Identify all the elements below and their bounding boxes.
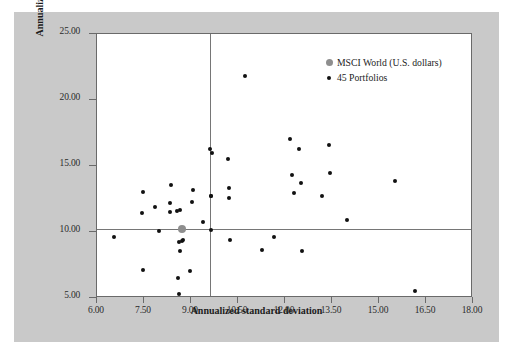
data-point-portfolio bbox=[243, 74, 247, 78]
data-point-portfolio bbox=[209, 194, 213, 198]
x-tick: 12.00 bbox=[284, 297, 285, 303]
data-point-portfolio bbox=[190, 200, 194, 204]
data-point-portfolio bbox=[140, 211, 144, 215]
data-point-portfolio bbox=[177, 292, 181, 296]
x-tick: 16.50 bbox=[425, 297, 426, 303]
data-point-portfolio bbox=[292, 191, 296, 195]
x-tick: 15.00 bbox=[378, 297, 379, 303]
data-point-portfolio bbox=[297, 147, 301, 151]
data-point-portfolio bbox=[300, 249, 304, 253]
data-point-portfolio bbox=[290, 173, 294, 177]
y-tick-label: 15.00 bbox=[60, 158, 80, 168]
data-point-portfolio bbox=[345, 218, 349, 222]
msci-std-dev-reference bbox=[210, 34, 211, 296]
legend-dot-icon bbox=[321, 59, 337, 66]
chart-legend: MSCI World (U.S. dollars) 45 Portfolios bbox=[321, 55, 442, 85]
data-point-portfolio bbox=[227, 196, 231, 200]
data-point-portfolio bbox=[169, 183, 173, 187]
data-point-portfolio bbox=[168, 201, 172, 205]
y-tick-label: 5.00 bbox=[64, 290, 80, 300]
legend-label: 45 Portfolios bbox=[337, 72, 387, 83]
legend-dot-icon bbox=[321, 76, 337, 80]
data-point-portfolio bbox=[201, 220, 205, 224]
data-point-portfolio bbox=[168, 210, 172, 214]
legend-item-msci-world: MSCI World (U.S. dollars) bbox=[321, 55, 442, 70]
data-point-portfolio bbox=[393, 179, 397, 183]
data-point-portfolio bbox=[209, 228, 213, 232]
data-point-portfolio bbox=[188, 269, 192, 273]
x-tick: 7.50 bbox=[143, 297, 144, 303]
data-point-portfolio bbox=[328, 171, 332, 175]
y-tick: 10.00 bbox=[89, 231, 96, 232]
data-point-portfolio bbox=[178, 208, 182, 212]
data-point-portfolio bbox=[210, 151, 214, 155]
data-point-portfolio bbox=[227, 186, 231, 190]
figure-panel: Annualized rate of return in percent 5.0… bbox=[14, 12, 499, 342]
y-tick: 15.00 bbox=[89, 165, 96, 166]
y-axis-title: Annualized rate of return in percent bbox=[34, 0, 45, 64]
legend-item-45-portfolios: 45 Portfolios bbox=[321, 70, 442, 85]
data-point-portfolio bbox=[413, 289, 417, 293]
msci-return-reference bbox=[97, 229, 471, 230]
data-point-portfolio bbox=[141, 190, 145, 194]
x-tick: 18.00 bbox=[472, 297, 473, 303]
data-point-portfolio bbox=[112, 235, 116, 239]
data-point-portfolio bbox=[153, 205, 157, 209]
data-point-portfolio bbox=[141, 268, 145, 272]
x-tick: 10.50 bbox=[237, 297, 238, 303]
data-point-portfolio bbox=[180, 239, 184, 243]
x-tick: 9.00 bbox=[190, 297, 191, 303]
x-tick: 6.00 bbox=[96, 297, 97, 303]
data-point-portfolio bbox=[228, 238, 232, 242]
data-point-portfolio bbox=[272, 235, 276, 239]
data-point-portfolio bbox=[208, 147, 212, 151]
y-tick-label: 25.00 bbox=[60, 26, 80, 36]
data-point-portfolio bbox=[320, 194, 324, 198]
data-point-portfolio bbox=[157, 229, 161, 233]
plot-wrapper: 5.0010.0015.0020.0025.00 6.007.509.0010.… bbox=[96, 33, 472, 297]
y-tick: 5.00 bbox=[89, 297, 96, 298]
x-tick: 13.50 bbox=[331, 297, 332, 303]
data-point-portfolio bbox=[288, 137, 292, 141]
data-point-portfolio bbox=[260, 248, 264, 252]
x-axis-title: Annualized standard deviation bbox=[14, 305, 499, 316]
y-tick: 25.00 bbox=[89, 33, 96, 34]
data-point-portfolio bbox=[299, 181, 303, 185]
data-point-portfolio bbox=[176, 276, 180, 280]
data-point-msci-world bbox=[178, 225, 186, 233]
data-point-portfolio bbox=[226, 157, 230, 161]
legend-label: MSCI World (U.S. dollars) bbox=[337, 57, 442, 68]
data-point-portfolio bbox=[327, 143, 331, 147]
y-tick-label: 20.00 bbox=[60, 92, 80, 102]
y-tick-label: 10.00 bbox=[60, 224, 80, 234]
y-tick: 20.00 bbox=[89, 99, 96, 100]
data-point-portfolio bbox=[191, 188, 195, 192]
data-point-portfolio bbox=[178, 249, 182, 253]
